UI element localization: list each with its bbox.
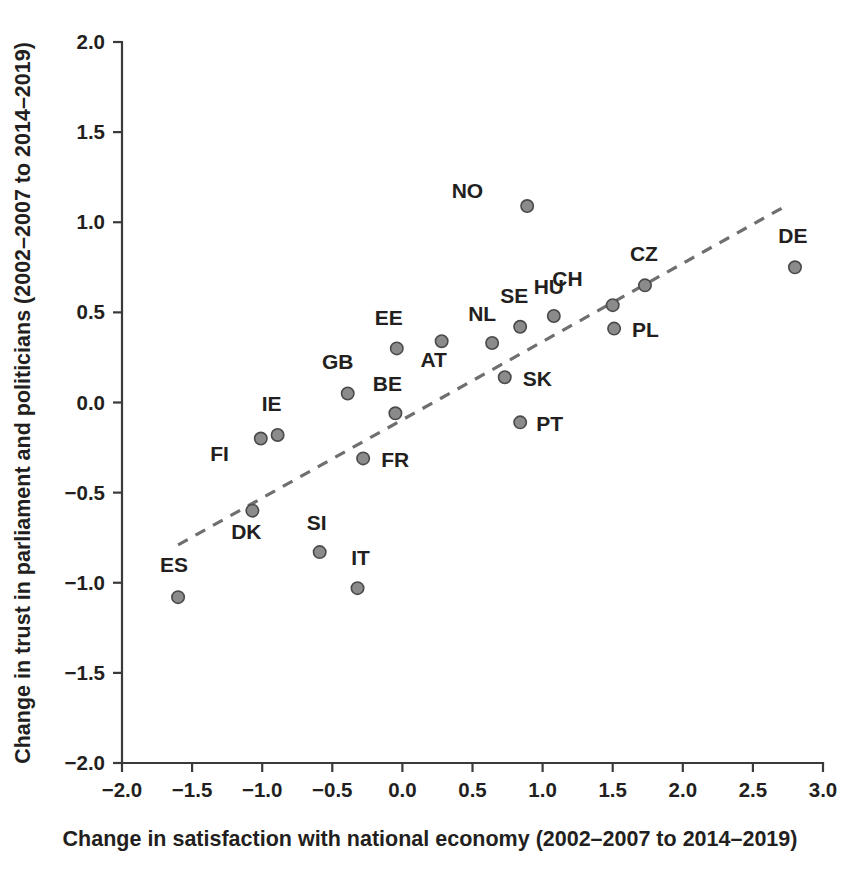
data-point-label-pt: PT (536, 412, 563, 435)
data-point-label-it: IT (351, 546, 370, 569)
data-point-label-no: NO (452, 179, 484, 202)
x-tick-label: −2.0 (102, 778, 142, 801)
data-point-label-cz: CZ (630, 242, 658, 265)
data-point-it[interactable] (351, 582, 363, 594)
y-tick-label: 2.0 (77, 30, 106, 53)
y-tick-label: −1.5 (65, 661, 105, 684)
data-point-fi[interactable] (255, 432, 267, 444)
x-tick-label: 0.5 (458, 778, 487, 801)
data-point-label-es: ES (160, 553, 188, 576)
x-tick-label: 2.5 (739, 778, 768, 801)
x-tick-label: 3.0 (809, 778, 838, 801)
data-point-label-gb: GB (322, 350, 354, 373)
data-point-label-fr: FR (381, 448, 409, 471)
axes: −2.0−1.5−1.0−0.50.00.51.01.52.02.53.02.0… (65, 30, 838, 801)
y-tick-label: −0.5 (65, 481, 105, 504)
data-point-no[interactable] (521, 200, 533, 212)
data-point-label-sk: SK (523, 367, 552, 390)
y-tick-label: 0.0 (77, 391, 106, 414)
y-tick-label: −2.0 (65, 751, 105, 774)
x-tick-label: −1.0 (242, 778, 282, 801)
data-point-fr[interactable] (357, 452, 369, 464)
data-point-dk[interactable] (246, 504, 258, 516)
data-point-label-fi: FI (210, 442, 229, 465)
trend-line (178, 208, 782, 545)
y-axis-title: Change in trust in parliament and politi… (11, 42, 35, 764)
data-point-label-de: DE (778, 224, 807, 247)
data-point-ee[interactable] (391, 342, 403, 354)
data-point-de[interactable] (789, 261, 801, 273)
data-point-sk[interactable] (499, 371, 511, 383)
y-tick-label: −1.0 (65, 571, 105, 594)
data-points: NODECZCHHUSEPLATNLEESKGBBEIEFIPTFRDKSIIT… (160, 179, 807, 603)
trend-line-dashed (178, 208, 782, 545)
data-point-gb[interactable] (342, 387, 354, 399)
data-point-nl[interactable] (486, 337, 498, 349)
x-tick-label: −1.5 (172, 778, 212, 801)
x-tick-label: −0.5 (312, 778, 352, 801)
y-tick-label: 0.5 (77, 300, 106, 323)
data-point-se[interactable] (514, 321, 526, 333)
x-axis-title: Change in satisfaction with national eco… (63, 827, 798, 851)
data-point-label-pl: PL (632, 318, 659, 341)
data-point-ch[interactable] (607, 299, 619, 311)
data-point-be[interactable] (389, 407, 401, 419)
data-point-pl[interactable] (608, 322, 620, 334)
data-point-at[interactable] (435, 335, 447, 347)
scatter-plot-figure: −2.0−1.5−1.0−0.50.00.51.01.52.02.53.02.0… (0, 0, 860, 870)
data-point-label-se: SE (500, 284, 528, 307)
data-point-cz[interactable] (639, 279, 651, 291)
chart-canvas: −2.0−1.5−1.0−0.50.00.51.01.52.02.53.02.0… (0, 0, 860, 870)
data-point-pt[interactable] (514, 416, 526, 428)
x-tick-label: 0.0 (388, 778, 417, 801)
y-tick-label: 1.0 (77, 210, 106, 233)
data-point-ie[interactable] (271, 429, 283, 441)
data-point-label-dk: DK (231, 520, 261, 543)
data-point-label-at: AT (420, 348, 447, 371)
data-point-label-si: SI (307, 511, 327, 534)
y-tick-label: 1.5 (77, 120, 106, 143)
x-tick-label: 1.5 (598, 778, 627, 801)
data-point-label-nl: NL (468, 302, 496, 325)
data-point-label-hu: HU (534, 275, 564, 298)
x-tick-label: 1.0 (528, 778, 557, 801)
axis-titles: Change in satisfaction with national eco… (11, 42, 797, 851)
data-point-hu[interactable] (548, 310, 560, 322)
data-point-si[interactable] (313, 546, 325, 558)
data-point-label-ee: EE (375, 306, 403, 329)
x-tick-label: 2.0 (669, 778, 698, 801)
data-point-es[interactable] (172, 591, 184, 603)
data-point-label-ie: IE (262, 392, 282, 415)
data-point-label-be: BE (373, 372, 402, 395)
